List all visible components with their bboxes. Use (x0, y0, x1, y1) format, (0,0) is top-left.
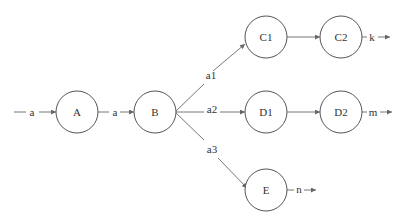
edge-label-a1: a1 (206, 69, 216, 81)
node-e: E (245, 169, 287, 211)
node-label-c1: C1 (260, 31, 273, 43)
edge-label-k: k (369, 31, 375, 43)
node-label-a: A (73, 106, 81, 118)
edge-e-output: n (287, 183, 316, 195)
edge-c2-output: k (361, 31, 390, 43)
edge-d2-output: m (361, 106, 392, 118)
node-d2: D2 (320, 91, 362, 133)
node-c2: C2 (320, 16, 362, 58)
node-label-e: E (263, 184, 270, 196)
node-d1: D1 (245, 91, 287, 133)
edge-input-a: a (14, 106, 56, 118)
node-label-d2: D2 (334, 106, 347, 118)
edge-b-e: a3 (175, 112, 247, 188)
edge-label-a2: a2 (207, 103, 217, 115)
edge-label-input-a: a (30, 106, 35, 118)
node-b: B (134, 91, 176, 133)
node-c1: C1 (245, 16, 287, 58)
edge-b-d1: a2 (175, 103, 245, 115)
node-label-d1: D1 (259, 106, 272, 118)
flow-diagram: a a a1 a2 a3 k m n (0, 0, 402, 219)
edge-label-a-b: a (113, 106, 118, 118)
edge-label-n: n (296, 183, 302, 195)
edge-a-b: a (97, 106, 134, 118)
edge-label-m: m (369, 106, 378, 118)
edge-label-a3: a3 (207, 143, 218, 155)
node-label-c2: C2 (335, 31, 348, 43)
edge-b-c1: a1 (175, 44, 245, 112)
node-label-b: B (151, 106, 158, 118)
node-a: A (56, 91, 98, 133)
